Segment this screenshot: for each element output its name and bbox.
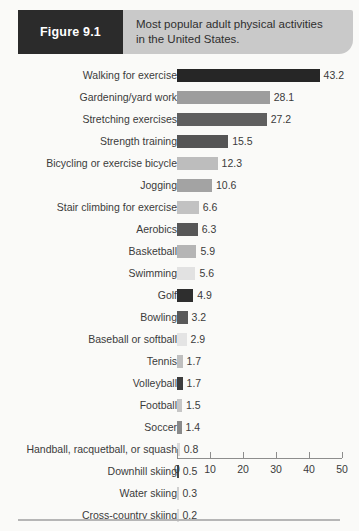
figure-number-label: Figure 9.1 (40, 25, 101, 39)
category-label: Downhill skiing (108, 460, 177, 482)
category-label: Soccer (144, 416, 177, 438)
x-axis-line (177, 458, 342, 459)
category-label: Volleyball (133, 372, 177, 394)
bar-row: Jogging10.6 (0, 174, 359, 196)
value-label: 5.9 (200, 245, 215, 258)
bar-row: Swimming5.6 (0, 262, 359, 284)
value-label: 4.9 (197, 289, 212, 302)
value-label: 2.9 (191, 333, 206, 346)
bar-and-value: 4.9 (177, 284, 212, 306)
category-label: Basketball (129, 240, 177, 262)
figure-number-tab: Figure 9.1 (18, 10, 123, 54)
x-axis: 01020304050 (177, 458, 342, 488)
bar-row: Football1.5 (0, 394, 359, 416)
bar-row: Handball, racquetball, or squash0.8 (0, 438, 359, 460)
figure-page: { "banner": { "figure_tab_label": "Figur… (0, 0, 359, 531)
bar-row: Stretching exercises27.2 (0, 108, 359, 130)
bar-and-value: 6.3 (177, 218, 216, 240)
bar-row: Baseball or softball2.9 (0, 328, 359, 350)
x-axis-tick (342, 452, 343, 458)
x-axis-tick (276, 452, 277, 458)
bar-row: Walking for exercise43.2 (0, 64, 359, 86)
bar (177, 421, 182, 434)
x-axis-origin-tick (177, 449, 178, 458)
value-label: 43.2 (324, 69, 344, 82)
category-label: Bicycling or exercise bicycle (46, 152, 177, 174)
bar (177, 135, 228, 148)
value-label: 1.4 (186, 421, 201, 434)
bar-and-value: 1.7 (177, 350, 201, 372)
category-label: Strength training (100, 130, 177, 152)
bar (177, 201, 199, 214)
bar-and-value: 28.1 (177, 86, 294, 108)
bar (177, 113, 267, 126)
value-label: 15.5 (232, 135, 252, 148)
category-label: Bowling (140, 306, 177, 328)
category-label: Cross-country skiing (82, 504, 177, 526)
bar-and-value: 15.5 (177, 130, 253, 152)
figure-banner: Figure 9.1 Most popular adult physical a… (18, 10, 353, 54)
x-axis-tick-label: 20 (237, 463, 249, 475)
value-label: 10.6 (216, 179, 236, 192)
bar-row: Bowling3.2 (0, 306, 359, 328)
bar-and-value: 5.9 (177, 240, 215, 262)
bar-row: Golf4.9 (0, 284, 359, 306)
bar-and-value: 6.6 (177, 196, 217, 218)
value-label: 12.3 (222, 157, 242, 170)
value-label: 1.7 (187, 355, 202, 368)
bar (177, 157, 218, 170)
figure-title: Most popular adult physical activities i… (136, 17, 346, 46)
footer-rule (18, 519, 340, 521)
x-axis-tick (243, 452, 244, 458)
bar-row: Aerobics6.3 (0, 218, 359, 240)
category-label: Football (140, 394, 177, 416)
x-axis-tick (309, 452, 310, 458)
figure-title-line-1: Most popular adult physical activities (136, 17, 346, 32)
value-label: 5.6 (199, 267, 214, 280)
bar (177, 399, 182, 412)
category-label: Stretching exercises (82, 108, 177, 130)
category-label: Water skiing (120, 482, 177, 504)
x-axis-tick-label: 0 (174, 463, 180, 475)
bar-row: Stair climbing for exercise6.6 (0, 196, 359, 218)
bar-row: Soccer1.4 (0, 416, 359, 438)
bar-and-value: 10.6 (177, 174, 236, 196)
category-label: Walking for exercise (83, 64, 177, 86)
bar (177, 377, 183, 390)
value-label: 6.6 (203, 201, 218, 214)
bar (177, 267, 195, 280)
category-label: Gardening/yard work (80, 86, 177, 108)
bar (177, 355, 183, 368)
bar (177, 289, 193, 302)
category-label: Handball, racquetball, or squash (26, 438, 177, 460)
category-label: Golf (158, 284, 177, 306)
bar-and-value: 0.2 (177, 504, 197, 526)
bar-row: Tennis1.7 (0, 350, 359, 372)
bar (177, 311, 188, 324)
bar-and-value: 1.4 (177, 416, 200, 438)
category-label: Tennis (147, 350, 177, 372)
bar-and-value: 5.6 (177, 262, 214, 284)
bar (177, 487, 179, 500)
bar (177, 245, 196, 258)
category-label: Stair climbing for exercise (57, 196, 177, 218)
category-label: Baseball or softball (88, 328, 177, 350)
bar-and-value: 0.8 (177, 438, 198, 460)
bar-and-value: 27.2 (177, 108, 291, 130)
bar-chart: Walking for exercise43.2Gardening/yard w… (0, 64, 359, 494)
figure-title-line-2: in the United States. (136, 32, 346, 47)
bar (177, 333, 187, 346)
bar-and-value: 12.3 (177, 152, 242, 174)
bar (177, 69, 320, 82)
category-label: Aerobics (136, 218, 177, 240)
value-label: 0.8 (184, 443, 199, 456)
value-label: 1.7 (187, 377, 202, 390)
value-label: 1.5 (186, 399, 201, 412)
bar-and-value: 1.5 (177, 394, 201, 416)
bar-row: Bicycling or exercise bicycle12.3 (0, 152, 359, 174)
x-axis-tick-label: 50 (336, 463, 348, 475)
value-label: 3.2 (192, 311, 207, 324)
bar-and-value: 1.7 (177, 372, 201, 394)
value-label: 0.3 (183, 487, 198, 500)
category-label: Swimming (129, 262, 177, 284)
